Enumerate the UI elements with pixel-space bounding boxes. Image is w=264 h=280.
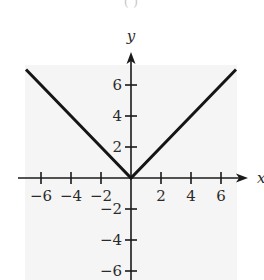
y-tick-label: 6 — [112, 76, 122, 94]
x-tick-label: −6 — [30, 187, 52, 205]
y-tick-label: −2 — [100, 200, 122, 218]
y-tick-label: 2 — [112, 138, 122, 156]
y-tick-label: −6 — [100, 262, 122, 280]
x-tick-label: 4 — [186, 187, 196, 205]
x-tick-label: 6 — [216, 187, 226, 205]
y-tick-label: 4 — [112, 107, 122, 125]
panel-label: ( ) — [124, 0, 138, 9]
x-tick-label: −4 — [60, 187, 82, 205]
y-axis-label: y — [126, 27, 136, 45]
x-axis-label: x — [257, 169, 264, 187]
x-tick-label: 2 — [156, 187, 166, 205]
y-tick-label: −4 — [100, 231, 122, 249]
absolute-value-graph: ( ) −6−4−2246−6−4−2246 x y — [0, 0, 264, 280]
